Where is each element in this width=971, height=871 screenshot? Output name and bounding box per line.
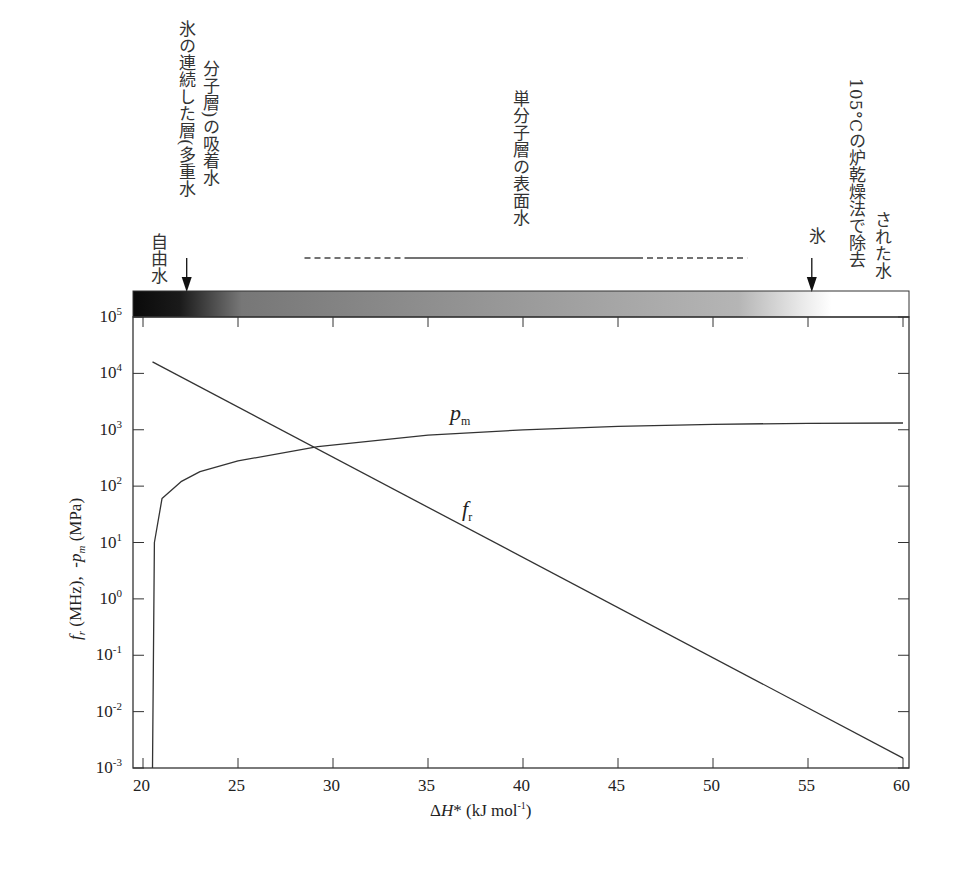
arrow-head-icon (182, 277, 192, 292)
x-tick-label: 60 (893, 776, 910, 796)
x-axis-title: ΔH* (kJ mol-1) (430, 800, 531, 821)
pm-curve (153, 423, 904, 768)
y-tick-label: 105 (62, 305, 122, 327)
x-tick-label: 45 (608, 776, 625, 796)
fr-label: fr (462, 496, 472, 525)
curves (153, 362, 904, 768)
y-tick-label: 10-1 (62, 643, 122, 665)
annotation-free-water: 自由水 (148, 233, 168, 284)
arrow-head-icon (807, 277, 817, 292)
y-axis-title: fr (MHz), -pm (MPa) (66, 498, 87, 640)
annotation-oven-dry-line2: された水 (872, 211, 892, 279)
water-state-gradient-bar (133, 291, 909, 317)
x-tick-label: 30 (323, 776, 340, 796)
annotation-monolayer: 単分子層の表面水 (510, 90, 530, 226)
annotation-arrows (182, 258, 817, 292)
y-tick-label: 10-3 (62, 756, 122, 778)
x-tick-label: 20 (133, 776, 150, 796)
x-tick-label: 35 (418, 776, 435, 796)
fr-curve (153, 362, 904, 758)
annotation-ice-layer-line2: 分子層)の吸着水 (200, 60, 220, 186)
x-tick-label: 50 (703, 776, 720, 796)
x-tick-label: 40 (513, 776, 530, 796)
x-tick-label: 55 (798, 776, 815, 796)
y-tick-label: 103 (62, 418, 122, 440)
x-tick-label: 25 (228, 776, 245, 796)
annotation-oven-dry-line1: 105°Cの炉乾燥法で除去 (846, 78, 866, 268)
annotation-ice-layer-line1: 氷の連続した層(多重水 (176, 20, 196, 250)
y-tick-label: 102 (62, 474, 122, 496)
annotation-ice: 氷 (806, 227, 826, 244)
y-tick-label: 10-2 (62, 700, 122, 722)
chart-canvas (0, 0, 971, 871)
y-tick-label: 104 (62, 361, 122, 383)
pm-label: pm (450, 400, 470, 429)
gradient-rect (133, 291, 909, 317)
